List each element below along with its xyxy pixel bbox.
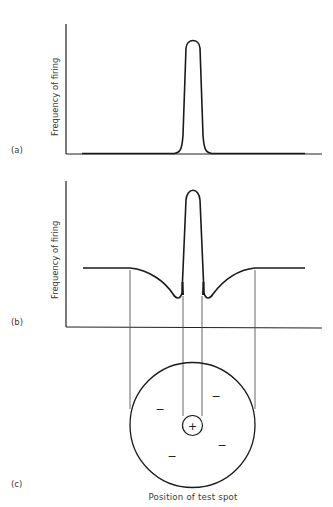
panel-a: Frequency of firing (a)	[11, 24, 322, 155]
panel-b-flank-mark-right	[203, 282, 204, 295]
panel-a-label: (a)	[11, 145, 23, 155]
surround-minus-icon-1: −	[155, 403, 164, 416]
surround-minus-icon-2: −	[211, 390, 220, 403]
panel-b-label: (b)	[11, 317, 23, 327]
x-axis-caption: Position of test spot	[148, 492, 238, 502]
projection-guides	[130, 270, 255, 416]
surround-minus-icon-3: −	[217, 439, 226, 452]
panel-b-x-axis	[66, 327, 322, 328]
center-plus-icon: +	[188, 420, 197, 433]
panel-a-response-curve	[82, 41, 305, 154]
panel-b: Frequency of firing (b)	[11, 181, 322, 328]
panel-a-ylabel: Frequency of firing	[50, 58, 60, 136]
panel-c-label: (c)	[11, 479, 22, 489]
receptive-field-figure: Frequency of firing (a) Frequency of fir…	[0, 0, 333, 507]
panel-b-ylabel: Frequency of firing	[50, 221, 60, 299]
panel-b-flank-mark-left	[183, 282, 184, 295]
panel-b-response-curve	[83, 190, 305, 298]
panel-c: + − − − − (c) Position of test spot	[11, 363, 255, 503]
surround-minus-icon-4: −	[167, 450, 176, 463]
